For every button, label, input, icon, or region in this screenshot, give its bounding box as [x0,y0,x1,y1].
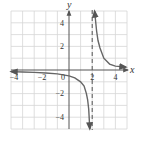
rational-function-graph: x y −4 −2 0 2 4 4 2 −2 −4 [0,0,147,143]
y-tick-label: −4 [55,113,64,122]
y-tick-label: −2 [55,89,64,98]
x-axis-label: x [129,64,135,75]
x-tick-label: −4 [10,73,19,82]
x-tick-label: 2 [90,73,94,82]
y-axis-label: y [66,0,72,10]
x-tick-label: −2 [38,73,47,82]
x-tick-label: 4 [113,73,117,82]
y-tick-label: 4 [60,19,64,28]
x-tick-label: 0 [61,73,65,82]
curve-right-branch [95,11,126,67]
y-tick-label: 2 [60,42,64,51]
